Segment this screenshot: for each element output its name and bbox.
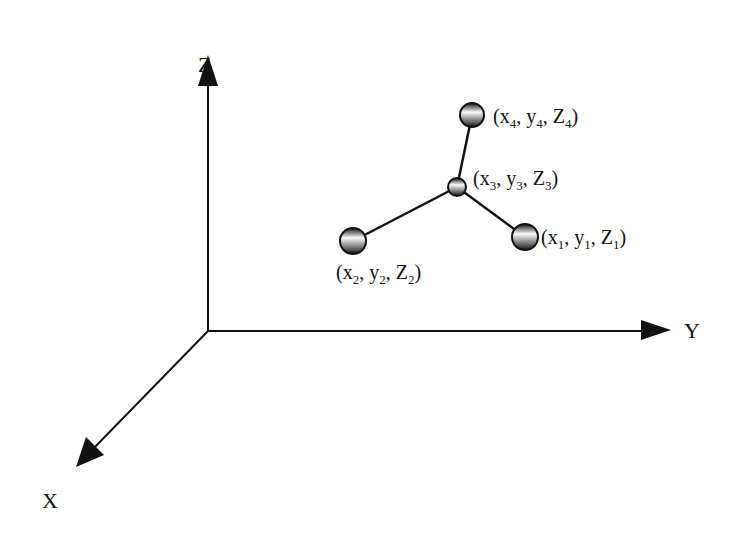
y-arrow-icon (641, 320, 671, 340)
atom-4-sphere (460, 103, 484, 127)
bond-3-2 (353, 187, 457, 241)
atom-2-sphere (340, 228, 366, 254)
atom-1-label: (x1, y1, z1) (541, 226, 626, 252)
atom-3-label: (x3, y3, z3) (473, 167, 558, 193)
z-axis (198, 55, 218, 331)
atom-3-sphere (448, 178, 466, 196)
atom-2-label: (x2, y2, z2) (336, 261, 421, 287)
atom-4-label: (x4, y4, z4) (493, 105, 578, 131)
z-axis-label: Z (198, 52, 211, 77)
y-axis (208, 320, 671, 340)
x-axis-label: X (42, 488, 58, 513)
x-axis (76, 331, 208, 467)
coordinate-diagram: Z Y X (x4, y4, z4) (x3, y3, z3) (x1, y1,… (0, 0, 739, 539)
atom-1-sphere (512, 224, 538, 250)
y-axis-label: Y (684, 318, 700, 343)
